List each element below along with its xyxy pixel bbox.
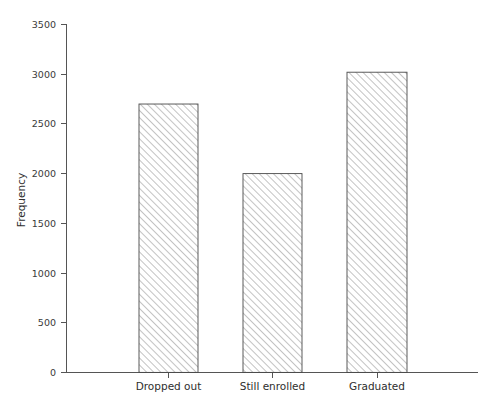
x-tick-label-dropped-out: Dropped out xyxy=(136,380,202,392)
x-tick-label-graduated: Graduated xyxy=(349,380,405,392)
y-tick-label-3500: 3500 xyxy=(32,19,56,30)
y-axis-ticks xyxy=(61,25,67,373)
bar-graduated[interactable] xyxy=(347,72,407,372)
y-tick-label-2500: 2500 xyxy=(32,118,56,129)
x-axis-tick-labels: Dropped out Still enrolled Graduated xyxy=(136,380,405,392)
y-tick-label-0: 0 xyxy=(50,367,56,378)
y-axis-title: Frequency xyxy=(15,173,27,227)
bars-group xyxy=(139,72,407,372)
x-tick-label-still-enrolled: Still enrolled xyxy=(240,380,305,392)
y-tick-label-1000: 1000 xyxy=(32,268,56,279)
y-tick-label-2000: 2000 xyxy=(32,168,56,179)
bar-chart: 3500 3000 2500 2000 1500 1000 500 0 Freq… xyxy=(0,0,497,406)
y-tick-label-3000: 3000 xyxy=(32,69,56,80)
y-tick-label-500: 500 xyxy=(38,317,56,328)
bar-still-enrolled[interactable] xyxy=(243,174,302,373)
chart-canvas: 3500 3000 2500 2000 1500 1000 500 0 Freq… xyxy=(0,0,497,406)
x-axis-ticks xyxy=(169,373,378,379)
y-axis-tick-labels: 3500 3000 2500 2000 1500 1000 500 0 xyxy=(32,19,56,378)
bar-dropped-out[interactable] xyxy=(139,104,198,372)
y-tick-label-1500: 1500 xyxy=(32,218,56,229)
